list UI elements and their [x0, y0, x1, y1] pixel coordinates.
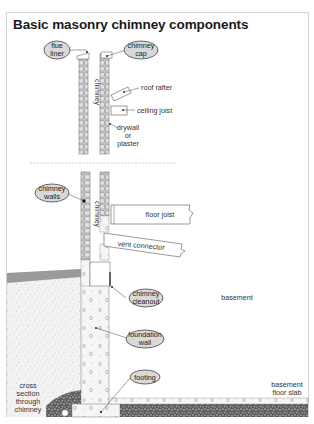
chimney-label-lower: chimney	[93, 201, 101, 228]
left-chimney-wall-lower	[81, 172, 90, 260]
drywall: drywall or plaster	[109, 123, 139, 148]
footing-shape	[72, 404, 120, 417]
foundation-wall-shape	[81, 273, 109, 406]
callout-chimney-cap: chimney cap	[106, 41, 158, 59]
floor-joist-label: floor joist	[146, 210, 175, 219]
callout-chimney-cleanout: chimney cleanout	[111, 286, 163, 307]
chimney-cap-label-2: cap	[135, 49, 147, 58]
chimney-diagram: chimney roof rafter ceiling joist drywal…	[0, 0, 314, 424]
left-chimney-wall-upper	[79, 58, 88, 154]
drain-tile	[62, 410, 69, 417]
roof-rafter: roof rafter	[111, 83, 173, 101]
ceiling-joist-label: ceiling joist	[137, 106, 172, 115]
floor-joist: floor joist	[111, 205, 193, 224]
basement-floor-slab	[109, 398, 308, 404]
vent-connector: vent connector	[104, 233, 185, 257]
cleanout-door	[90, 262, 110, 286]
flue-liner-label-2: liner	[50, 49, 64, 58]
svg-text:floor slab: floor slab	[272, 388, 301, 397]
basement-label: basement	[221, 293, 253, 302]
drywall-label-3: plaster	[117, 139, 139, 148]
gravel-bed	[120, 404, 308, 417]
ceiling-joist: ceiling joist	[111, 106, 172, 115]
upper-chimney: chimney roof rafter ceiling joist drywal…	[77, 52, 173, 154]
svg-text:chimney: chimney	[15, 405, 42, 414]
foundation-wall-label-2: wall	[138, 338, 152, 347]
footing-label: footing	[134, 373, 156, 382]
chimney-label-upper: chimney	[93, 79, 101, 106]
chimney-walls-label-2: walls	[43, 192, 60, 201]
callout-chimney-walls: chimney walls	[35, 184, 86, 203]
flue-liner-top	[77, 53, 89, 59]
basement-floor-slab-label: basement floor slab	[271, 380, 303, 397]
roof-rafter-label: roof rafter	[141, 83, 173, 92]
chimney-cleanout-label-2: cleanout	[132, 297, 159, 306]
